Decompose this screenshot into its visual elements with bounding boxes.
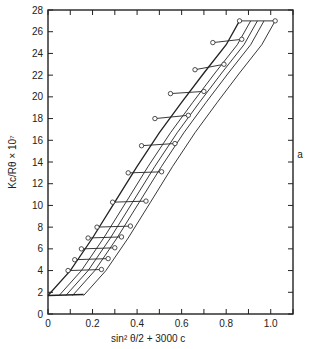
data-point-marker [240,37,244,41]
data-point-marker [211,40,215,44]
constant-angle-line [68,270,102,271]
data-point-marker [66,268,70,272]
constant-angle-line [142,144,176,146]
data-point-marker [119,235,123,239]
data-point-marker [202,89,206,93]
data-point-marker [95,225,99,229]
y-tick-label: 16 [32,135,44,146]
data-point-marker [113,246,117,250]
y-tick-label: 4 [37,265,43,276]
data-markers [66,19,278,273]
data-point-marker [99,267,103,271]
data-point-marker [153,116,157,120]
data-point-marker [73,258,77,262]
constant-concentration-line [66,21,258,296]
y-tick-label: 6 [37,243,43,254]
data-point-marker [106,256,110,260]
x-tick-label: 0.4 [130,318,144,329]
data-point-marker [173,141,177,145]
y-tick-label: 26 [32,26,44,37]
constant-concentration-line [84,21,276,296]
plot-frame [48,10,293,314]
x-tick-label: 0.6 [175,318,189,329]
data-point-marker [159,170,163,174]
constant-angle-line [75,259,108,260]
data-point-marker [186,113,190,117]
data-point-marker [168,91,172,95]
y-tick-label: 28 [32,5,44,16]
y-tick-label: 20 [32,91,44,102]
y-axis-label: Kc/Rθ × 10⁷ [7,135,18,189]
constant-concentration-line [73,21,265,296]
constant-angle-line [97,226,130,227]
data-point-marker [126,171,130,175]
data-point-marker [193,68,197,72]
x-tick-label: 1.0 [264,318,278,329]
constant-concentration-line [48,21,240,296]
y-tick-label: 22 [32,70,44,81]
data-point-marker [110,200,114,204]
side-annotation: a [297,149,303,160]
data-point-marker [128,224,132,228]
y-tick-label: 12 [32,178,44,189]
y-tick-label: 10 [32,200,44,211]
constant-angle-line [171,91,204,93]
plot-lines [48,21,275,296]
axis-labels: 00.20.40.60.81.0024681012141618202224262… [7,5,303,345]
y-tick-label: 14 [32,157,44,168]
data-point-marker [273,19,277,23]
y-tick-label: 0 [37,309,43,320]
x-axis-label: sin² θ/2 + 3000 c [111,333,185,344]
data-point-marker [86,236,90,240]
x-tick-label: 0.2 [86,318,100,329]
constant-concentration-line [59,21,251,296]
y-tick-label: 8 [37,222,43,233]
x-tick-label: 0 [45,318,51,329]
x-tick-label: 0.8 [219,318,233,329]
data-point-marker [79,247,83,251]
axes [48,10,293,314]
constant-angle-line [48,295,84,296]
constant-angle-line [113,201,146,202]
data-point-marker [237,19,241,23]
y-tick-label: 24 [32,48,44,59]
data-point-marker [139,144,143,148]
y-tick-label: 2 [37,287,43,298]
data-point-marker [144,199,148,203]
zimm-plot-figure: 00.20.40.60.81.0024681012141618202224262… [0,0,313,349]
data-point-marker [222,62,226,66]
chart-canvas: 00.20.40.60.81.0024681012141618202224262… [0,0,313,349]
y-tick-label: 18 [32,113,44,124]
